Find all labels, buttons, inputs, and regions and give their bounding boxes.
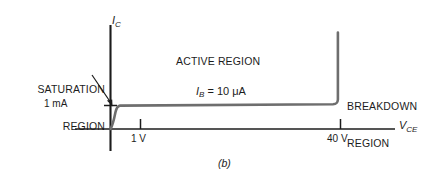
saturation-region-label-line2: REGION: [6, 120, 105, 132]
transistor-collector-characteristic-figure: IC VCE 1 mA 1 V 40 V SATURATION REGION A…: [0, 0, 434, 181]
saturation-region-label: SATURATION REGION: [6, 58, 105, 157]
base-current-unit: μA: [232, 85, 246, 97]
y-axis-label: IC: [112, 14, 121, 30]
collector-characteristic-curve: [111, 33, 338, 130]
x-tick-label-40v: 40 V: [327, 133, 348, 145]
saturation-region-label-line1: SATURATION: [6, 83, 105, 95]
active-region-label: ACTIVE REGION: [176, 55, 260, 67]
x-tick-label-1v: 1 V: [131, 133, 146, 145]
y-axis-label-subscript: C: [115, 20, 121, 29]
figure-caption: (b): [218, 157, 231, 169]
breakdown-region-label-line1: BREAKDOWN: [347, 100, 417, 112]
breakdown-region-label: BREAKDOWN REGION: [347, 75, 417, 174]
breakdown-region-label-line2: REGION: [347, 137, 417, 149]
base-current-annotation: IB = 10 μA: [196, 85, 246, 99]
base-current-equals: = 10: [204, 85, 232, 97]
